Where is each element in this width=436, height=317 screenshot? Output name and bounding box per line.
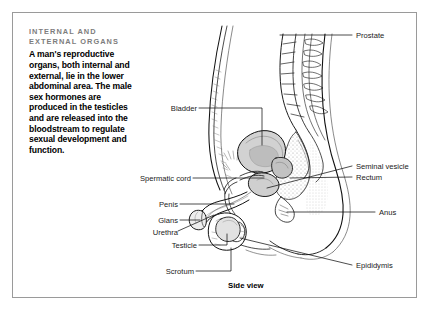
label-testicle: Testicle (140, 241, 197, 250)
label-scrotum: Scrotum (138, 267, 194, 276)
section-heading: Internal and external organs (29, 27, 137, 46)
leader-epididymis (240, 238, 352, 265)
label-spermatic-cord: Spermatic cord (88, 174, 191, 183)
label-prostate: Prostate (356, 31, 384, 40)
label-rectum: Rectum (356, 173, 382, 182)
section-body: A man's reproductive organs, both intern… (29, 49, 137, 156)
label-seminal-vesicle: Seminal vesicle (356, 162, 409, 171)
figure-caption: Side view (228, 281, 264, 290)
leader-scrotum (196, 248, 231, 271)
label-bladder: Bladder (113, 104, 197, 113)
label-anus: Anus (379, 208, 396, 217)
label-epididymis: Epididymis (356, 261, 393, 270)
label-urethra: Urethra (112, 228, 178, 237)
label-penis: Penis (118, 200, 178, 209)
diagram-page: Internal and external organs A man's rep… (0, 0, 436, 317)
label-glans: Glans (118, 216, 178, 225)
sidebar-text-block: Internal and external organs A man's rep… (29, 27, 137, 156)
